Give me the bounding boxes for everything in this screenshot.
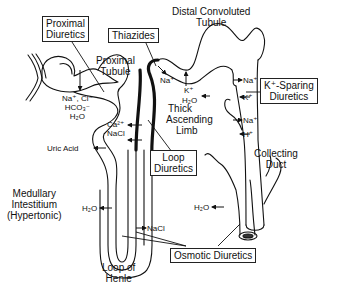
cd-ion-h: H⁺: [243, 130, 253, 139]
nephron-diagram: Proximal Diuretics Thiazides K⁺-Sparing …: [0, 0, 342, 297]
ascending-nacl-label: NaCl: [147, 224, 165, 233]
cd-branch-lower-left: [205, 154, 240, 235]
uric-acid-label: Uric Acid: [47, 144, 79, 153]
distal-tubule-label: Distal Convoluted Tubule: [172, 6, 250, 28]
proximal-tubule-inner: [98, 55, 128, 262]
collecting-duct-label: Collecting Duct: [254, 148, 298, 170]
arrow-na-distal: [158, 66, 166, 74]
distal-na-label: Na⁺: [160, 76, 174, 85]
cd-ion-k: K⁺: [243, 93, 253, 102]
thick-ascending-limb: [136, 70, 140, 150]
proximal-tubule-label: Proximal Tubule: [96, 55, 135, 77]
proximal-diuretics-box: Proximal Diuretics: [42, 16, 89, 42]
medullary-interstitium-label: Medullary Intestitium (Hypertonic): [7, 188, 61, 221]
osmotic-diuretics-box: Osmotic Diuretics: [170, 248, 256, 263]
distal-k-label: K⁺: [184, 86, 194, 95]
loop-of-henle-label: Loop of Henle: [102, 262, 135, 284]
cd-ion-na-2: Na⁺: [243, 116, 257, 125]
proximal-ions: Na⁺, Cl⁻ HCO₃⁻ H₂O: [62, 94, 93, 121]
tal-ions: Ca²⁺ NaCl: [107, 120, 125, 138]
distal-h2o-label: H₂O: [182, 96, 197, 105]
thiazides-box: Thiazides: [108, 28, 159, 43]
k-sparing-diuretics-box: K⁺-Sparing Diuretics: [260, 78, 318, 104]
collecting-duct: [236, 86, 246, 225]
distal-tubule: [158, 24, 265, 71]
descending-h2o-label: H₂O: [82, 204, 97, 213]
cd-ion-na-1: Na⁺: [243, 76, 257, 85]
cd-h2o-label: H₂O: [194, 203, 209, 212]
leader-osmotic-3: [218, 224, 240, 246]
loop-diuretics-box: Loop Diuretics: [150, 150, 197, 176]
thick-ascending-limb-label: Thick Ascending Limb: [166, 103, 213, 136]
